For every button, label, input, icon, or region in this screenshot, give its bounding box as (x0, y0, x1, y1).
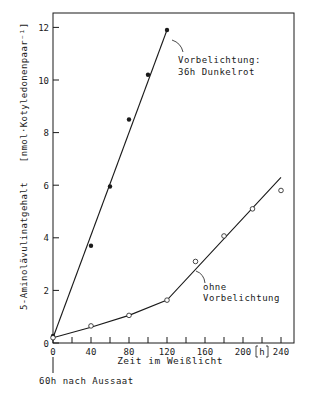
y-tick-label: 8 (44, 128, 49, 138)
annotation-none-line1: ohne (203, 282, 227, 292)
filled-data-point (146, 73, 150, 77)
filled-data-point (108, 184, 112, 188)
filled-data-point (165, 28, 169, 32)
filled-data-point (89, 243, 93, 247)
y-tick-label: 10 (38, 76, 49, 86)
open-data-point (165, 298, 170, 303)
open-data-point (127, 313, 132, 318)
y-tick-label: 12 (38, 23, 49, 33)
y-tick-label: 6 (44, 181, 49, 191)
open-data-point (89, 324, 94, 329)
annotation-dark-red-line1: Vorbelichtung: (178, 55, 261, 65)
annotation-leader-dark-red (172, 40, 183, 52)
y-tick-label: 0 (44, 339, 49, 349)
x-axis-title: Zeit im Weißlicht (117, 355, 223, 366)
x-axis-ticks: 04080120160200240h (50, 337, 289, 357)
y-axis-title-main: 5-Aminolävulinatgehalt (19, 182, 29, 310)
chart: 04080120160200240h 024681012 Zeit im Wei… (0, 0, 314, 397)
y-axis-ticks: 024681012 (38, 23, 59, 349)
y-tick-label: 4 (44, 233, 49, 243)
y-tick-label: 2 (44, 286, 49, 296)
fit-line-series-1 (53, 30, 167, 338)
open-data-point (279, 188, 284, 193)
y-axis-title-unit: [nmol·Kotyledonenpaar⁻¹] (19, 23, 29, 163)
annotation-dark-red-line2: 36h Dunkelrot (178, 67, 255, 77)
open-data-point (193, 259, 198, 264)
x-tick-label: 40 (86, 347, 97, 357)
y-axis-title: 5-Aminolävulinatgehalt [nmol·Kotyledonen… (19, 23, 29, 311)
open-data-point (51, 335, 56, 340)
x-tick-label: 240 (273, 347, 289, 357)
fit-line-series-2 (53, 177, 281, 337)
origin-note: 60h nach Aussaat (39, 376, 134, 386)
filled-data-point (127, 117, 131, 121)
annotation-none-line2: Vorbelichtung (203, 293, 280, 303)
x-tick-label: 0 (50, 347, 55, 357)
x-tick-label: 200 (235, 347, 251, 357)
x-unit-label: h (259, 347, 264, 357)
open-data-point (250, 207, 255, 212)
open-data-point (222, 234, 227, 239)
